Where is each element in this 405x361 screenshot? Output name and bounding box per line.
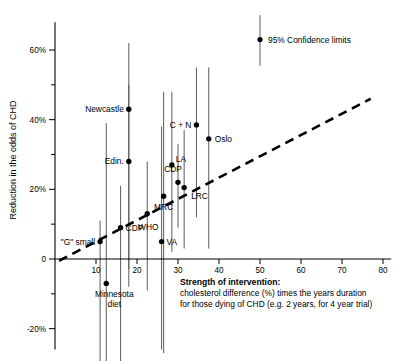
x-tick-label-80: 80	[378, 266, 388, 275]
y-tick-label-60: 60%	[30, 46, 46, 55]
x-tick-label-20: 20	[132, 266, 142, 275]
y-tick-label-40: 40%	[30, 116, 46, 125]
x-tick-label-50: 50	[255, 266, 265, 275]
point-label-oslo: Oslo	[215, 134, 233, 144]
y-axis-title: Reduction in the odds of CHD	[8, 100, 18, 220]
caption-line-1: cholesterol difference (%) times the yea…	[180, 288, 367, 298]
y-tick-label-neg20: -20%	[27, 325, 46, 334]
legend-label: 95% Confidence limits	[268, 35, 351, 45]
point-label-va: VA	[167, 237, 178, 247]
x-tick-label-40: 40	[214, 266, 224, 275]
point-label-cdp-mid: CDP	[164, 164, 182, 174]
point-label-c-plus-n: C + N	[170, 120, 192, 130]
point-label-g-small: "G" small	[61, 237, 95, 247]
y-tick-label-20: 20%	[30, 185, 46, 194]
x-tick-label-30: 30	[173, 266, 183, 275]
legend-point-marker	[257, 37, 262, 42]
point-label-lrc: LRC	[191, 191, 208, 201]
caption-heading: Strength of intervention:	[180, 277, 280, 287]
chd-reduction-scatter-plot: 60% 40% 20% 0 -20% 10 20 30 40 50 60 70 …	[0, 0, 405, 361]
point-label-edin: Edin.	[105, 156, 124, 166]
y-tick-label-0: 0	[41, 255, 46, 264]
point-label-mrc: MRC	[154, 202, 173, 212]
point-label-who: WHO	[138, 222, 159, 232]
point-label-la: LA	[176, 154, 187, 164]
x-tick-label-60: 60	[296, 266, 306, 275]
x-tick-label-70: 70	[337, 266, 347, 275]
x-tick-label-10: 10	[91, 266, 101, 275]
chart-container: 60% 40% 20% 0 -20% 10 20 30 40 50 60 70 …	[0, 0, 405, 361]
point-label-minnesota-line2: diet	[107, 299, 121, 309]
point-label-newcastle: Newcastle	[85, 104, 124, 114]
caption-line-2: for those dying of CHD (e.g. 2 years, fo…	[180, 299, 372, 309]
point-label-minnesota-line1: Minnesota	[95, 289, 134, 299]
